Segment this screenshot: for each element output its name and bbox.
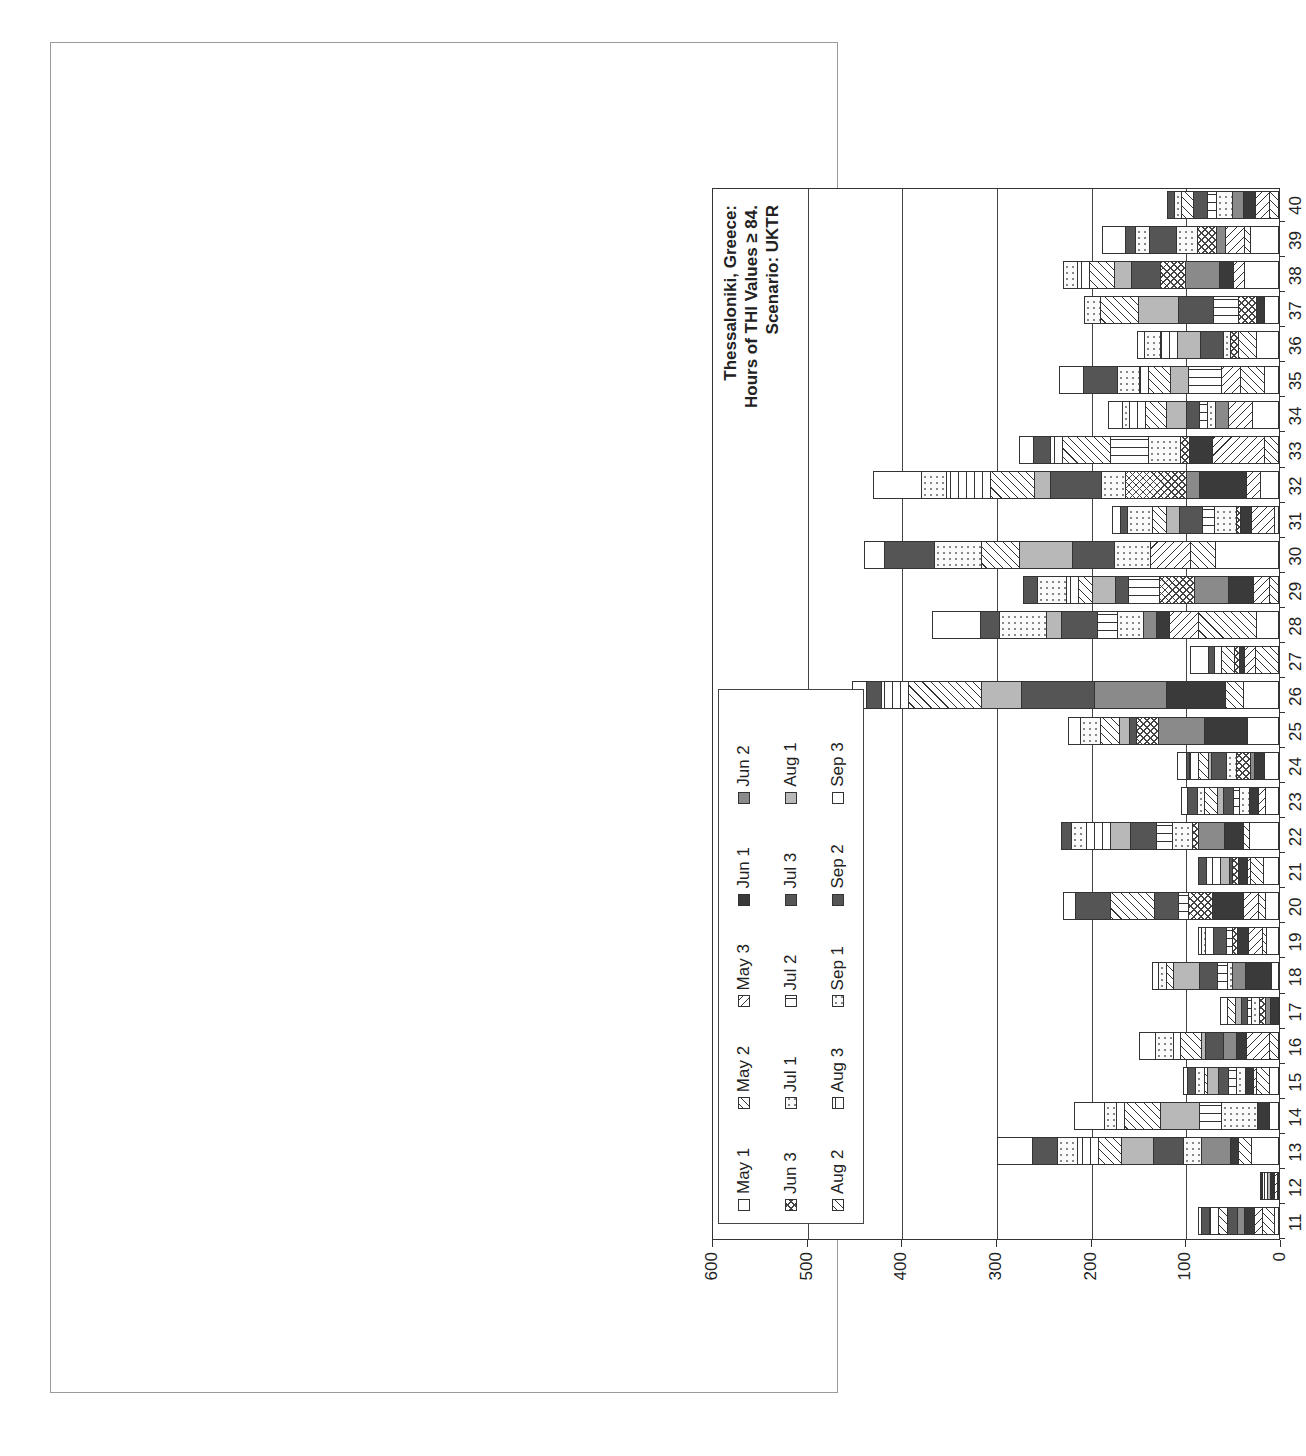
bar-segment — [1084, 296, 1100, 324]
bar-segment — [1125, 226, 1135, 254]
bar-segment — [1214, 506, 1236, 534]
bar-segment — [1236, 1032, 1246, 1060]
bar-segment — [1218, 1207, 1227, 1235]
bar-segment — [934, 541, 982, 569]
stacked-bar — [1198, 1207, 1279, 1235]
stacked-bar — [1220, 997, 1279, 1025]
stacked-bar — [864, 541, 1279, 569]
legend-swatch-icon — [785, 995, 797, 1007]
stacked-bar — [1137, 331, 1279, 359]
legend-swatch-icon — [832, 792, 844, 804]
bar-segment — [864, 541, 884, 569]
bar-segment — [1244, 1207, 1254, 1235]
bar-segment — [1180, 1032, 1201, 1060]
stacked-bar — [1059, 366, 1279, 394]
bar-segment — [1188, 892, 1212, 920]
y-tick-label: 600 — [702, 1252, 722, 1302]
bar-segment — [1177, 331, 1200, 359]
bar-segment — [1114, 541, 1150, 569]
y-tick-mark — [807, 1240, 808, 1247]
bar-segment — [1207, 191, 1216, 219]
bar-segment — [1148, 366, 1170, 394]
bar-segment — [1202, 506, 1214, 534]
x-tick-mark — [1279, 256, 1285, 257]
y-tick-mark — [1280, 1240, 1281, 1247]
legend-item: Jun 3 — [776, 1109, 805, 1211]
bar-segment — [1124, 1102, 1160, 1130]
stacked-bar — [1102, 226, 1279, 254]
x-tick-label: 32 — [1286, 469, 1306, 503]
legend-item: Jun 1 — [729, 804, 758, 906]
bar-segment — [1201, 1207, 1209, 1235]
bar-segment — [1100, 717, 1119, 745]
x-tick-label: 25 — [1286, 715, 1306, 749]
bar-segment — [1266, 927, 1278, 955]
bar-segment — [1195, 1067, 1204, 1095]
bar-segment — [1252, 401, 1278, 429]
bar-segment — [873, 471, 921, 499]
bar-segment — [1156, 822, 1172, 850]
x-tick-mark — [1279, 502, 1285, 503]
bar-segment — [1258, 892, 1265, 920]
bar-segment — [1116, 1102, 1124, 1130]
bar-segment — [1228, 1067, 1236, 1095]
bar-segment — [1062, 436, 1110, 464]
bar-segment — [1068, 717, 1080, 745]
chart-title: Thessaloniki, Greece: Hours of THI Value… — [720, 205, 783, 665]
bar-segment — [1197, 787, 1204, 815]
bar-segment — [1205, 927, 1213, 955]
bar-segment — [1094, 681, 1166, 709]
x-tick-label: 23 — [1286, 785, 1306, 819]
x-tick-mark — [1279, 1168, 1285, 1169]
bar-segment — [1117, 366, 1139, 394]
stacked-bar — [1167, 191, 1279, 219]
x-tick-mark — [1279, 1238, 1285, 1239]
bar-segment — [1120, 506, 1128, 534]
bar-segment — [1166, 506, 1179, 534]
bar-segment — [1236, 1067, 1244, 1095]
x-tick-label: 31 — [1286, 504, 1306, 538]
legend-swatch-icon — [738, 894, 750, 906]
legend-label: Sep 1 — [828, 946, 848, 990]
bar-segment — [1225, 226, 1244, 254]
chart-title-line-3: Scenario: UKTR — [762, 205, 783, 665]
bar-segment — [1170, 366, 1189, 394]
bar-segment — [1172, 822, 1192, 850]
legend-label: May 1 — [734, 1148, 754, 1194]
bar-segment — [1193, 191, 1207, 219]
y-tick-label: 400 — [891, 1252, 911, 1302]
bar-segment — [908, 681, 980, 709]
legend-label: Aug 3 — [828, 1048, 848, 1092]
bar-segment — [1270, 997, 1278, 1025]
bar-segment — [1201, 1137, 1230, 1165]
x-tick-mark — [1279, 747, 1285, 748]
bar-segment — [1174, 191, 1181, 219]
x-tick-label: 19 — [1286, 925, 1306, 959]
bar-segment — [1131, 261, 1160, 289]
y-tick-label: 300 — [986, 1252, 1006, 1302]
bar-segment — [1187, 1067, 1194, 1095]
bar-segment — [1199, 962, 1216, 990]
y-tick-label: 100 — [1175, 1252, 1195, 1302]
bar-segment — [990, 471, 1034, 499]
bar-segment — [1215, 541, 1278, 569]
bar-segment — [1139, 366, 1149, 394]
bar-segment — [1255, 191, 1268, 219]
stacked-bar — [997, 1137, 1279, 1165]
x-tick-label: 37 — [1286, 294, 1306, 328]
x-tick-label: 18 — [1286, 960, 1306, 994]
legend: May 1May 2May 3Jun 1Jun 2Jun 3Jul 1Jul 2… — [718, 689, 864, 1224]
legend-swatch-icon — [785, 1097, 797, 1109]
bar-segment — [1158, 717, 1204, 745]
bar-segment — [1110, 822, 1130, 850]
bar-segment — [1050, 471, 1101, 499]
bar-segment — [1271, 962, 1278, 990]
bar-segment — [1148, 436, 1180, 464]
bar-segment — [1176, 226, 1197, 254]
bar-segment — [1083, 366, 1117, 394]
bar-segment — [1264, 366, 1278, 394]
bar-segment — [1019, 541, 1072, 569]
x-tick-mark — [1279, 1063, 1285, 1064]
bar-segment — [1239, 787, 1249, 815]
legend-item: Aug 3 — [824, 1007, 853, 1109]
